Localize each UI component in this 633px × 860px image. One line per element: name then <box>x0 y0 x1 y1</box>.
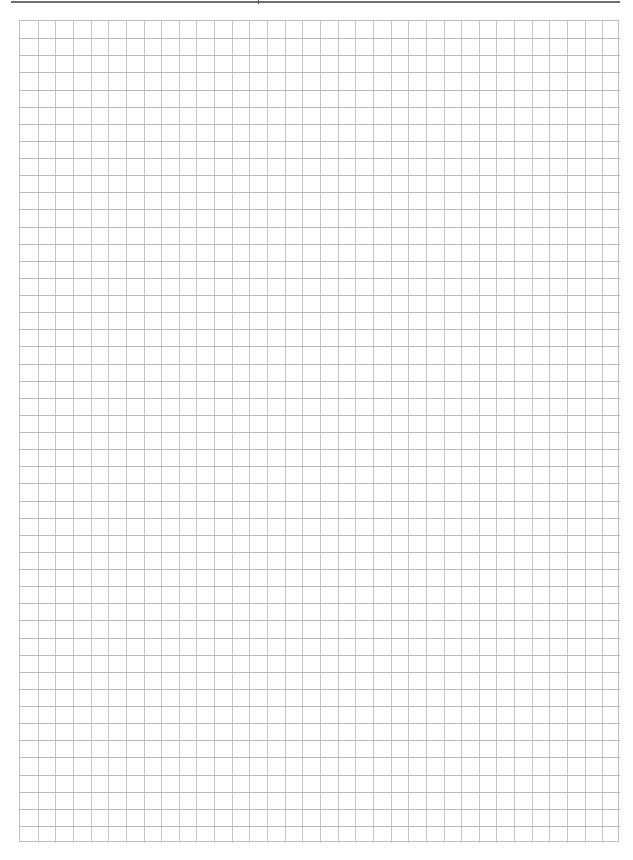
grid-lines <box>20 21 620 843</box>
header-tick-mark <box>258 0 259 4</box>
header-rule <box>11 1 620 3</box>
graph-paper-grid <box>19 20 619 842</box>
